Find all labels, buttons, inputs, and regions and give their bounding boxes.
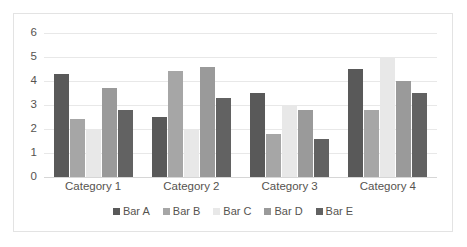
bar-bar-e xyxy=(314,139,329,177)
legend-swatch-icon xyxy=(113,208,120,215)
bar-bar-d xyxy=(298,110,313,177)
bar-bar-b xyxy=(168,71,183,177)
bar-bar-e xyxy=(412,93,427,177)
category-label: Category 2 xyxy=(142,181,240,193)
bar-bar-d xyxy=(102,88,117,177)
legend-label: Bar E xyxy=(326,206,354,217)
y-axis-tick-label: 6 xyxy=(31,27,37,39)
y-axis-tick-label: 1 xyxy=(31,147,37,159)
bar-bar-e xyxy=(118,110,133,177)
bar-bar-b xyxy=(266,134,281,177)
bar-bar-a xyxy=(152,117,167,177)
bar-group xyxy=(339,33,437,177)
bar-bar-c xyxy=(184,129,199,177)
bar-group xyxy=(241,33,339,177)
legend-label: Bar C xyxy=(223,206,251,217)
plot-area: 0123456 xyxy=(44,33,437,177)
y-axis-tick-label: 0 xyxy=(31,171,37,183)
legend-item-bar-e[interactable]: Bar E xyxy=(316,206,354,217)
bar-group xyxy=(142,33,240,177)
legend-label: Bar D xyxy=(274,206,302,217)
bar-bar-e xyxy=(216,98,231,177)
bar-bar-a xyxy=(250,93,265,177)
legend-item-bar-a[interactable]: Bar A xyxy=(113,206,150,217)
x-axis-category-labels: Category 1Category 2Category 3Category 4 xyxy=(44,181,437,193)
bar-bar-d xyxy=(396,81,411,177)
category-label: Category 4 xyxy=(339,181,437,193)
y-axis-tick-label: 5 xyxy=(31,51,37,63)
bar-bar-c xyxy=(380,57,395,177)
bar-bar-c xyxy=(86,129,101,177)
legend-item-bar-c[interactable]: Bar C xyxy=(213,206,251,217)
bar-bar-b xyxy=(364,110,379,177)
chart-legend: Bar ABar BBar CBar DBar E xyxy=(14,206,452,217)
legend-swatch-icon xyxy=(163,208,170,215)
legend-swatch-icon xyxy=(213,208,220,215)
category-label: Category 1 xyxy=(44,181,142,193)
bar-bar-a xyxy=(348,69,363,177)
legend-label: Bar A xyxy=(123,206,150,217)
y-axis-tick-label: 3 xyxy=(31,99,37,111)
bar-bar-d xyxy=(200,67,215,177)
bar-bar-c xyxy=(282,105,297,177)
legend-item-bar-b[interactable]: Bar B xyxy=(163,206,201,217)
legend-label: Bar B xyxy=(173,206,201,217)
category-label: Category 3 xyxy=(241,181,339,193)
bar-groups xyxy=(44,33,437,177)
legend-item-bar-d[interactable]: Bar D xyxy=(264,206,302,217)
bar-bar-b xyxy=(70,119,85,177)
chart-frame: 0123456 Category 1Category 2Category 3Ca… xyxy=(13,13,453,232)
bar-group xyxy=(44,33,142,177)
legend-swatch-icon xyxy=(264,208,271,215)
legend-swatch-icon xyxy=(316,208,323,215)
y-axis-tick-label: 2 xyxy=(31,123,37,135)
y-axis-tick-label: 4 xyxy=(31,75,37,87)
bar-bar-a xyxy=(54,74,69,177)
gridline xyxy=(44,177,437,178)
